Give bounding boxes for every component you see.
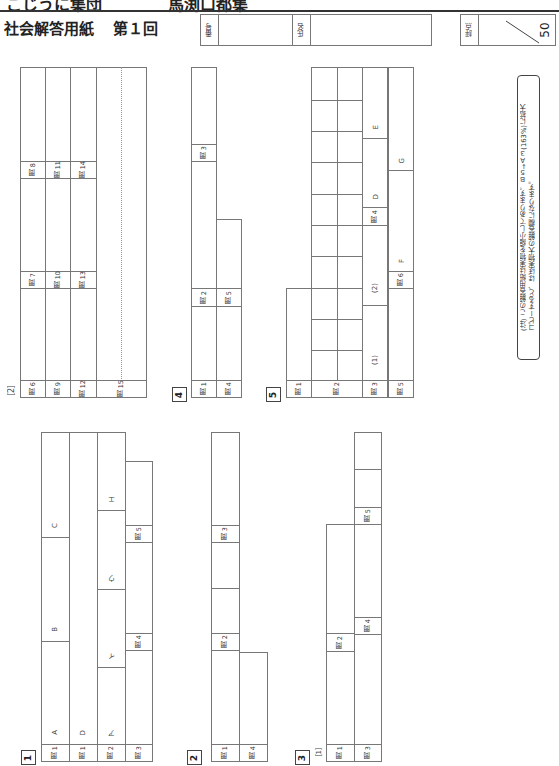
s1-e: エ — [107, 496, 117, 503]
s1-a: ア — [107, 730, 117, 737]
s1-q1d-label-cell: 問 1 — [69, 744, 98, 762]
s3-q5-label-cell: 問 5 — [354, 507, 382, 525]
grid-line — [41, 537, 70, 538]
answer-cell-s1-q1-abc[interactable] — [41, 432, 70, 762]
grid-line — [211, 588, 240, 589]
cut-off-header-right: 馬渕口都集 — [168, 0, 248, 15]
q14-label-cell: 問 14 — [70, 161, 97, 179]
grid-line — [311, 162, 363, 163]
sections-s4-label: 4 — [174, 391, 184, 397]
sections-s5-q5: 問 5 — [398, 382, 405, 395]
sections-s2-q1: 問 1 — [222, 746, 229, 759]
s2-q2-label-cell: 問 2 — [211, 633, 240, 651]
q12-label-cell: 問 12 — [70, 380, 97, 398]
s1-A: A — [51, 730, 59, 735]
answer-cell-s4-q1-q3[interactable] — [191, 67, 217, 398]
sections-s3b-q13: 問 13 — [80, 271, 87, 288]
grid-line — [311, 350, 363, 351]
sections-s1-label: 1 — [23, 754, 33, 760]
sections-s3-label: 3 — [297, 754, 307, 760]
s4-q4-label-cell: 問 4 — [216, 380, 242, 398]
s1-q3-label-cell: 問 3 — [125, 744, 153, 762]
s2-q1-label-cell: 問 1 — [211, 744, 240, 762]
sections-s4-q2: 問 2 — [201, 291, 208, 304]
sections-s5-q3: 問 3 — [372, 382, 379, 395]
s5-q1-label-cell: 問 1 — [286, 380, 312, 398]
answer-cell-s1-q3-q5[interactable] — [125, 461, 153, 762]
answer-cell-s3-q3-q5[interactable] — [354, 432, 382, 762]
s5-q2-label-cell: 問 2 — [311, 380, 363, 398]
sections-s4-q1: 問 1 — [201, 382, 208, 395]
s3-q4-label-cell: 問 4 — [354, 617, 382, 635]
s3-q2-label-cell: 問 2 — [326, 633, 355, 652]
answer-cell-q12[interactable] — [70, 67, 97, 398]
grid-line — [97, 667, 126, 668]
s1-C: C — [51, 523, 59, 528]
s1-u: ウ — [107, 575, 117, 582]
grid-line — [354, 469, 382, 470]
note-line-2: コピーすると、ほぼ実物大の解答欄になります。 — [529, 177, 537, 331]
name-label-cell: 氏名 — [292, 14, 311, 46]
sections-s3-q4: 問 4 — [365, 619, 372, 632]
section-4-label: 4 — [172, 387, 187, 402]
sections-s3b-q9: 問 9 — [55, 382, 62, 395]
q8-label-cell: 問 8 — [20, 161, 46, 179]
q11-label-cell: 問 11 — [45, 161, 71, 179]
sections-s5-q6: 問 6 — [398, 273, 405, 286]
grid-line — [311, 256, 363, 257]
s5-p1: (1) — [371, 355, 379, 365]
s5-q6-label-cell: 問 6 — [388, 271, 414, 289]
sections-s1-q1d: 問 1 — [80, 746, 87, 759]
sections-s1-q2: 問 2 — [108, 746, 115, 759]
answer-cell-s1-q2[interactable] — [97, 432, 126, 762]
s4-q5-label-cell: 問 5 — [216, 288, 242, 307]
s5-q5-label-cell: 問 5 — [388, 380, 414, 398]
grid-line — [311, 100, 363, 101]
s5-F: F — [398, 259, 406, 263]
sections-s1-q3: 問 3 — [136, 746, 143, 759]
name-field[interactable] — [292, 14, 432, 46]
q9-label-cell: 問 9 — [45, 380, 71, 398]
score-max: 50 — [537, 22, 551, 37]
sections-s2-q3: 問 3 — [222, 527, 229, 540]
grid-line — [311, 319, 363, 320]
sections-s3b-q10: 問 10 — [55, 271, 62, 288]
q15-label-cell: 問 15 — [96, 380, 147, 398]
sections-s3b-q6: 問 6 — [30, 382, 37, 395]
answer-cell-q6[interactable] — [20, 67, 46, 398]
s1-q2-label-cell: 問 2 — [97, 744, 126, 762]
grid-line — [337, 67, 338, 381]
answer-cell-s2-q1-q3[interactable] — [211, 432, 240, 762]
sections-s4-q4: 問 4 — [226, 382, 233, 395]
sections-s5-q1: 問 1 — [296, 382, 303, 395]
score-label-cell: 評点 — [460, 14, 479, 46]
s5-q3-label-cell: 問 3 — [362, 380, 388, 398]
title-text: 社会解答用紙 — [4, 20, 94, 38]
s2-q4-label-cell: 問 4 — [239, 744, 268, 762]
grid-line — [311, 225, 363, 226]
answer-cell-s5-G[interactable] — [388, 67, 414, 171]
note-box: (注) この解答用紙は実物を縮小してあります。Ｂ５→Ａ３(163%)に拡大 コピ… — [517, 75, 540, 360]
sections-s3b-q11: 問 11 — [55, 161, 62, 178]
q10-label-cell: 問 10 — [45, 271, 71, 289]
answer-cell-s4-q4-q5[interactable] — [216, 219, 242, 398]
header-rule — [0, 10, 559, 12]
answer-cell-q9[interactable] — [45, 67, 71, 398]
s3-q3-label-cell: 問 3 — [354, 744, 382, 762]
sections-s3-q5: 問 5 — [365, 509, 372, 522]
sections-s4-q5: 問 5 — [226, 291, 233, 304]
sections-s2-label: 2 — [189, 754, 199, 760]
q7-label-cell: 問 7 — [20, 271, 46, 289]
sections-s1-q4: 問 4 — [136, 635, 143, 648]
s3-q1-label-cell: 問 1 — [326, 744, 355, 762]
q13-label-cell: 問 13 — [70, 271, 97, 289]
s1-i: イ — [107, 653, 117, 660]
s1-q1-label-cell: 問 1 — [41, 744, 70, 762]
answer-cell-s1-q1-d[interactable] — [69, 432, 98, 762]
sections-s3b-q15: 問 15 — [118, 380, 125, 397]
page-title: 社会解答用紙 第１回 — [4, 17, 158, 38]
grid-line — [97, 589, 126, 590]
s4-q3-label-cell: 問 3 — [191, 144, 217, 162]
sections-s4-q3: 問 3 — [201, 146, 208, 159]
sections-s3b-q7: 問 7 — [30, 273, 37, 286]
